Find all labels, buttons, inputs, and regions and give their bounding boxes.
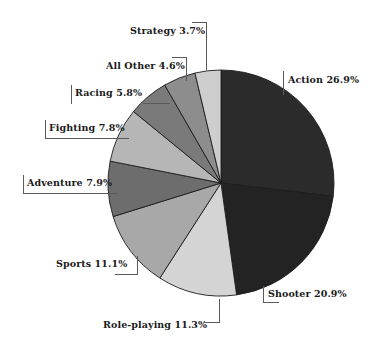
leader-shooter-horizontal [263, 302, 279, 303]
pie-slice-group [108, 70, 334, 296]
slice-label-role-playing: Role-playing 11.3% [103, 319, 207, 331]
leader-strategy-vertical [206, 22, 207, 70]
leader-fighting-vertical [45, 120, 46, 139]
leader-allother-vertical [186, 57, 187, 81]
slice-label-action: Action 26.9% [288, 74, 359, 86]
leader-adventure-horizontal [23, 193, 118, 194]
leader-sports-vertical [137, 256, 138, 275]
leader-fighting-horizontal [45, 138, 129, 139]
leader-allother-horizontal [172, 57, 187, 58]
slice-label-all-other: All Other 4.6% [106, 60, 185, 72]
leader-shooter-vertical [263, 286, 264, 303]
slice-label-sports: Sports 11.1% [56, 258, 127, 270]
slice-label-adventure: Adventure 7.9% [27, 177, 112, 189]
leader-adventure-vertical [23, 175, 24, 194]
leader-roleplaying-horizontal [204, 322, 220, 323]
leader-racing-horizontal [143, 103, 170, 104]
slice-label-shooter: Shooter 20.9% [268, 288, 347, 300]
slice-label-strategy: Strategy 3.7% [130, 25, 205, 37]
pie-slice-action [221, 70, 334, 196]
slice-label-fighting: Fighting 7.8% [49, 122, 125, 134]
pie-chart-figure: Action 26.9% Shooter 20.9% Role-playing … [0, 0, 381, 351]
slice-label-racing: Racing 5.8% [75, 87, 142, 99]
pie-slice-shooter [221, 183, 333, 295]
leader-strategy-horizontal [192, 22, 207, 23]
leader-roleplaying-vertical [219, 299, 220, 322]
leader-sports-horizontal [115, 274, 138, 275]
leader-racing-vertical [71, 85, 72, 104]
leader-action-vertical [283, 71, 284, 95]
